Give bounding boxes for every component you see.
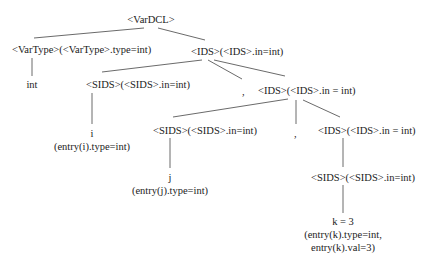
node-comma-1: , [242,86,245,98]
node-ids-3: <IDS>(<IDS>.in = int) [318,125,416,137]
edge-ids1-sids1 [102,60,202,72]
node-j-leaf: j [169,172,172,184]
node-ids-2: <IDS>(<IDS>.in = int) [258,85,356,97]
node-i-leaf: i [91,128,94,140]
node-int-leaf: int [26,79,37,91]
node-sids-3: <SIDS>(<SIDS>.in=int) [311,172,415,184]
edge-root-ids1 [158,28,205,40]
node-k-leaf: k = 3 [332,216,354,228]
node-k-attr-type: (entry(k).type=int, [304,229,382,241]
node-sids-2: <SIDS>(<SIDS>.in=int) [153,125,257,137]
edge-root-vartype [34,28,144,38]
node-j-attr: (entry(j).type=int) [132,185,208,197]
node-sids-1: <SIDS>(<SIDS>.in=int) [86,79,190,91]
edge-ids1-ids2 [214,60,285,76]
node-vartype: <VarType>(<VarType>.type=int) [12,44,151,56]
node-comma-2: , [294,128,297,140]
edge-ids2-sids2 [173,99,288,117]
node-ids-1: <IDS>(<IDS>.in=int) [191,46,283,58]
edge-ids2-ids3 [303,100,340,117]
node-k-attr-val: entry(k).val=3) [311,242,375,254]
node-vardcl: <VarDCL> [127,14,174,26]
parse-tree-diagram: <VarDCL> <VarType>(<VarType>.type=int) <… [0,0,432,255]
node-i-attr: (entry(i).type=int) [54,141,130,153]
